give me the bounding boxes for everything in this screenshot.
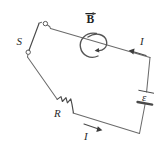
wire-lower-left: [28, 57, 58, 99]
current-top-label: I: [139, 35, 145, 47]
switch-label: S: [17, 35, 23, 47]
rotation-arrow-head: [95, 48, 100, 53]
switch-pivot-node: [26, 50, 30, 54]
switch-assembly[interactable]: [26, 21, 48, 54]
current-bottom-label: I: [83, 130, 89, 142]
wire-contact-stub: [48, 25, 51, 29]
resistor-label: R: [53, 107, 61, 119]
magnetic-field-rotation-arrow: [80, 33, 106, 57]
wire-right-upper: [147, 58, 150, 93]
switch-blade[interactable]: [29, 24, 39, 51]
wire-top: [51, 29, 151, 58]
field-vector-label-group: B: [86, 12, 96, 25]
circuit-diagram-svg: S R ε B: [0, 0, 161, 153]
current-bottom-arrowhead: [96, 126, 102, 132]
current-arrow-top: [129, 49, 146, 56]
circuit-figure: S R ε B: [0, 0, 161, 153]
switch-contact-node: [43, 21, 47, 25]
wire-right-lower: [140, 104, 146, 134]
wire-bottom: [73, 113, 140, 134]
switch-blade-tip: [39, 22, 42, 23]
emf-label: ε: [142, 91, 147, 103]
